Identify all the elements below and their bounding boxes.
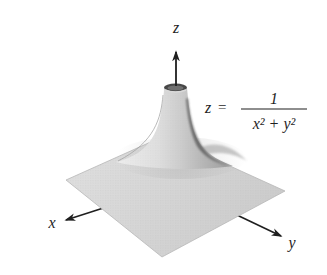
surface-plot-figure: z x y z = 1 x² + y² [0,0,327,275]
equation-denominator: x² + y² [252,115,297,133]
y-axis-label: y [286,234,296,252]
equation-equals-sign: = [218,99,226,115]
figure-canvas: z x y z = 1 x² + y² [0,0,327,275]
equation: z = 1 x² + y² [204,90,307,133]
equation-numerator: 1 [270,90,278,107]
x-axis-label: x [47,214,55,231]
equation-lhs: z [204,99,212,116]
spike-rim-inner [168,86,184,91]
z-axis-label: z [172,19,180,36]
